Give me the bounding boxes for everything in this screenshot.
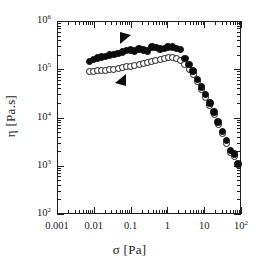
y-minor-tick-right [237, 125, 241, 126]
y-major-tick [57, 21, 64, 22]
x-minor-tick [142, 210, 143, 214]
x-minor-tick [90, 210, 91, 214]
x-minor-tick [129, 210, 130, 214]
y-minor-tick-right [237, 185, 241, 186]
x-minor-tick-top [105, 21, 106, 25]
x-major-tick [57, 207, 58, 214]
y-minor-tick [57, 84, 61, 85]
y-minor-tick-right [237, 170, 241, 171]
y-tick-label: 103 [17, 159, 51, 170]
x-minor-tick [125, 210, 126, 214]
x-minor-tick-top [122, 21, 123, 25]
x-minor-tick [156, 210, 157, 214]
x-tick-label: 102 [218, 220, 259, 231]
x-minor-tick-top [164, 21, 165, 25]
x-major-tick [204, 207, 205, 214]
y-minor-tick-right [237, 94, 241, 95]
y-minor-tick [57, 77, 61, 78]
y-minor-tick [57, 180, 61, 181]
x-major-tick [241, 207, 242, 214]
x-minor-tick [162, 210, 163, 214]
x-minor-tick-top [193, 21, 194, 25]
y-minor-tick [57, 55, 61, 56]
x-minor-tick-top [159, 21, 160, 25]
x-minor-tick [193, 210, 194, 214]
x-minor-tick-top [153, 21, 154, 25]
x-minor-tick-top [185, 21, 186, 25]
y-minor-tick-right [237, 180, 241, 181]
x-minor-tick-top [120, 21, 121, 25]
x-minor-tick-top [196, 21, 197, 25]
y-minor-tick [57, 94, 61, 95]
y-minor-tick-right [237, 55, 241, 56]
y-minor-tick-right [237, 84, 241, 85]
y-tick-label: 105 [17, 62, 51, 73]
data-point-filled [210, 108, 217, 115]
y-minor-tick-right [237, 103, 241, 104]
x-minor-tick [198, 210, 199, 214]
x-minor-tick-top [92, 21, 93, 25]
y-minor-tick-right [237, 23, 241, 24]
x-minor-tick-top [125, 21, 126, 25]
y-minor-tick [57, 143, 61, 144]
y-minor-tick [57, 191, 61, 192]
x-minor-tick-top [215, 21, 216, 25]
x-minor-tick-top [129, 21, 130, 25]
x-axis-title: σ [Pa] [0, 242, 259, 258]
y-minor-tick [57, 28, 61, 29]
y-minor-tick [57, 170, 61, 171]
y-minor-tick [57, 122, 61, 123]
sweep-down-arrow [120, 32, 131, 44]
y-minor-tick-right [237, 191, 241, 192]
y-minor-tick-right [237, 71, 241, 72]
x-minor-tick [190, 210, 191, 214]
x-minor-tick [215, 210, 216, 214]
data-point-filled [206, 99, 213, 106]
y-minor-tick-right [237, 26, 241, 27]
x-minor-tick [222, 210, 223, 214]
x-major-tick [131, 207, 132, 214]
y-major-tick-right [234, 118, 241, 119]
y-minor-tick [57, 185, 61, 186]
x-major-tick [167, 207, 168, 214]
x-minor-tick-top [198, 21, 199, 25]
y-minor-tick-right [237, 80, 241, 81]
x-minor-tick [185, 210, 186, 214]
y-minor-tick [57, 26, 61, 27]
x-minor-tick-top [111, 21, 112, 25]
y-minor-tick-right [237, 137, 241, 138]
x-minor-tick-top [127, 21, 128, 25]
y-major-tick [57, 69, 64, 70]
y-minor-tick [57, 128, 61, 129]
x-minor-tick [226, 210, 227, 214]
y-minor-tick-right [237, 46, 241, 47]
y-minor-tick-right [237, 74, 241, 75]
x-minor-tick [164, 210, 165, 214]
x-minor-tick-top [226, 21, 227, 25]
x-minor-tick-top [148, 21, 149, 25]
x-minor-tick [75, 210, 76, 214]
y-tick-label: 104 [17, 111, 51, 122]
y-minor-tick [57, 103, 61, 104]
y-minor-tick-right [237, 173, 241, 174]
y-minor-tick [57, 71, 61, 72]
y-tick-label: 102 [17, 207, 51, 218]
x-major-tick-top [241, 21, 242, 28]
y-minor-tick [57, 132, 61, 133]
x-minor-tick-top [222, 21, 223, 25]
x-minor-tick-top [83, 21, 84, 25]
y-major-tick-right [234, 69, 241, 70]
x-major-tick-top [131, 21, 132, 28]
x-minor-tick [153, 210, 154, 214]
y-minor-tick [57, 173, 61, 174]
y-minor-tick-right [237, 168, 241, 169]
data-point-filled [198, 83, 205, 90]
y-minor-tick [57, 120, 61, 121]
y-minor-tick [57, 137, 61, 138]
x-minor-tick [92, 210, 93, 214]
y-major-tick [57, 214, 64, 215]
x-minor-tick-top [86, 21, 87, 25]
y-minor-tick-right [237, 88, 241, 89]
x-minor-tick-top [68, 21, 69, 25]
x-minor-tick [116, 210, 117, 214]
